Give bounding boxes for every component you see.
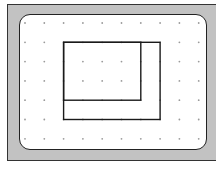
grid-dot <box>121 138 123 140</box>
grid-dot <box>43 22 45 24</box>
grid-dot <box>198 80 200 82</box>
grid-dot <box>198 61 200 63</box>
grid-dot <box>24 22 26 24</box>
grid-dot <box>179 41 181 43</box>
dot-grid <box>24 22 200 140</box>
grid-dot <box>43 99 45 101</box>
grid-dot <box>24 119 26 121</box>
grid-dot <box>43 119 45 121</box>
grid-dot <box>82 80 84 82</box>
grid-dot <box>43 80 45 82</box>
grid-dot <box>82 138 84 140</box>
grid-dot <box>101 138 103 140</box>
grid-dot <box>82 61 84 63</box>
grid-dot <box>198 41 200 43</box>
grid-dot <box>43 41 45 43</box>
grid-dot <box>101 61 103 63</box>
grid-dot <box>198 119 200 121</box>
grid-dot <box>179 22 181 24</box>
grid-dot <box>101 80 103 82</box>
grid-dot <box>159 22 161 24</box>
grid-dot <box>24 138 26 140</box>
grid-dot <box>43 138 45 140</box>
grid-dot <box>140 22 142 24</box>
grid-dot <box>63 22 65 24</box>
grid-dot <box>159 138 161 140</box>
grid-dot <box>198 138 200 140</box>
grid-dot <box>121 80 123 82</box>
grid-dot <box>24 61 26 63</box>
grid-dot <box>24 80 26 82</box>
grid-dot <box>101 22 103 24</box>
grid-dot <box>179 80 181 82</box>
grid-dot <box>140 138 142 140</box>
grid-dot <box>179 61 181 63</box>
geoboard-overlay <box>0 0 216 169</box>
grid-dot <box>43 61 45 63</box>
grid-dot <box>198 99 200 101</box>
grid-dot <box>179 138 181 140</box>
grid-dot <box>198 22 200 24</box>
grid-dot <box>121 61 123 63</box>
grid-dot <box>121 22 123 24</box>
grid-dot <box>179 119 181 121</box>
rectangle-shapes <box>64 42 161 119</box>
grid-dot <box>82 22 84 24</box>
larger-rectangle <box>64 42 161 119</box>
grid-dot <box>24 99 26 101</box>
smaller-rectangle <box>64 42 141 100</box>
grid-dot <box>179 99 181 101</box>
grid-dot <box>24 41 26 43</box>
grid-dot <box>63 138 65 140</box>
